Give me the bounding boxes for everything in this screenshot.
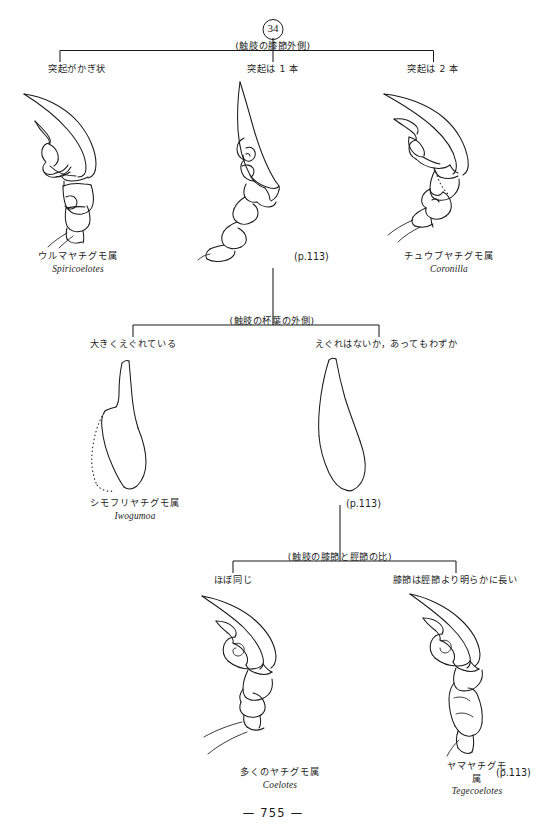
taxon-tegecoelotes: ヤマヤチグモ属 Tegecoelotes (p.112) [443,760,512,798]
figure-pedipalp-patella-tibia-equal [186,592,351,757]
taxon-coelotes: 多くのヤチグモ属 Coelotes (p.113) [240,766,319,792]
figure-pedipalp-single-apophysis [196,78,356,263]
figure-cymbium-not-notched [296,357,396,505]
couplet1-option-3-label: 突起は 2 本 [407,63,459,75]
key-node-number: 34 [263,19,284,40]
couplet1-character-label: (触肢の膝節外側) [235,40,311,52]
couplet2-character-label: (触肢の杯葉の外側) [229,315,314,327]
couplet3-option-1-label: ほぼ同じ [214,574,252,586]
couplet2-option-1-label: 大きくえぐれている [90,338,176,350]
taxon-page-ref: (p.112) [443,760,546,831]
taxon-iwogumoa: シモフリヤチグモ属 Iwogumoa (p.113) [90,497,179,523]
figure-pedipalp-patella-longer [396,588,546,758]
couplet3-character-label: (触肢の膝節と脛節の比) [288,551,392,563]
couplet1-option-2-label: 突起は 1 本 [247,63,299,75]
figure-pedipalp-double-apophysis [368,88,543,243]
couplet2-option-2-label: えぐれはないか，あってもわずか [315,338,458,350]
couplet3-option-2-label: 膝節は脛節より明らかに長い [393,574,518,586]
taxon-coronilla: チュウブヤチグモ属 Coronilla (p.112) [404,250,493,276]
couplet1-option-1-label: 突起がかぎ状 [48,63,106,75]
key-page: 34 (触肢の膝節外側) 突起がかぎ状 突起は 1 本 突起は 2 本 [0,0,546,831]
figure-cymbium-deeply-notched [86,358,191,493]
taxon-spiricoelotes: ウルマヤチグモ属 Spiricoelotes (p.113) [38,250,117,276]
figure-pedipalp-hooked-apophysis [6,80,186,248]
page-folio: — 755 — [243,806,304,820]
